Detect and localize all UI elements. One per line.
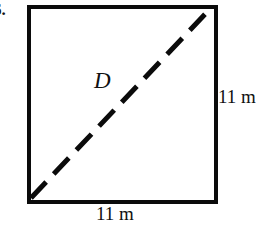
square-outline — [27, 5, 218, 204]
right-side-length-label: 11 m — [218, 86, 256, 108]
figure-canvas: 6. D 11 m 11 m — [0, 0, 268, 228]
bottom-side-length-label: 11 m — [96, 203, 134, 225]
problem-number: 6. — [0, 0, 6, 20]
diagonal-label-d: D — [94, 69, 111, 93]
